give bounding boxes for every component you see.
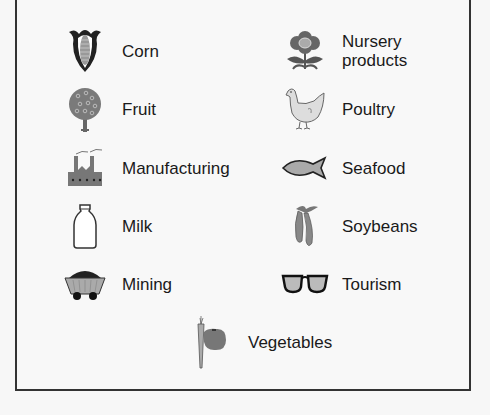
legend-item-manufacturing: Manufacturing: [60, 143, 230, 193]
legend-label: Soybeans: [342, 217, 418, 236]
legend-item-vegetables: Vegetables: [186, 312, 332, 372]
corn-icon: [60, 26, 110, 76]
soybean-pod-icon: [280, 201, 330, 251]
vegetables-icon: [186, 312, 236, 372]
factory-icon: [60, 143, 110, 193]
mine-cart-icon: [60, 259, 110, 309]
legend-item-tourism: Tourism: [280, 259, 402, 309]
legend-label: Seafood: [342, 159, 405, 178]
legend-label: Manufacturing: [122, 159, 230, 178]
flower-icon: [280, 26, 330, 76]
legend-label: Mining: [122, 275, 172, 294]
legend-item-soybeans: Soybeans: [280, 201, 418, 251]
legend-item-seafood: Seafood: [280, 143, 405, 193]
milk-bottle-icon: [60, 201, 110, 251]
legend-item-poultry: Poultry: [280, 84, 395, 134]
legend-label: Corn: [122, 42, 159, 61]
legend-item-milk: Milk: [60, 201, 152, 251]
legend-label: Tourism: [342, 275, 402, 294]
legend-label: Milk: [122, 217, 152, 236]
legend-item-corn: Corn: [60, 26, 159, 76]
fruit-tree-icon: [60, 84, 110, 134]
legend-item-nursery-products: Nurseryproducts: [280, 26, 407, 76]
legend-item-mining: Mining: [60, 259, 172, 309]
legend-label: Vegetables: [248, 333, 332, 352]
legend-label: Fruit: [122, 100, 156, 119]
legend-item-fruit: Fruit: [60, 84, 156, 134]
chicken-icon: [280, 84, 330, 134]
sunglasses-icon: [280, 259, 330, 309]
fish-icon: [280, 143, 330, 193]
legend-label: Nurseryproducts: [342, 32, 407, 70]
legend-label: Poultry: [342, 100, 395, 119]
